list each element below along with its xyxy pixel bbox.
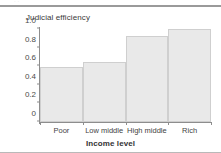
- y-tick-label: 1.0: [25, 16, 36, 25]
- x-tick-label-rich: Rich: [182, 126, 197, 135]
- y-tick-label: 0.4: [25, 71, 36, 80]
- caption-remnant-text: · ·: [14, 0, 134, 4]
- x-tick-label-poor: Poor: [53, 126, 69, 135]
- x-tick-mark: [211, 122, 212, 125]
- bottom-divider-rule: [0, 152, 221, 153]
- x-tick-mark: [126, 122, 127, 125]
- bar-low-middle: [83, 62, 126, 122]
- x-tick-mark: [40, 122, 41, 125]
- x-axis-title: Income level: [0, 139, 221, 148]
- bar-poor: [40, 67, 83, 122]
- x-tick-label-high-middle: High middle: [127, 126, 167, 135]
- figure-panel: · · Judicial efficiency 00.20.40.60.81.0…: [0, 0, 221, 153]
- y-tick-label: 0.6: [25, 53, 36, 62]
- y-tick-label: 0: [32, 109, 36, 118]
- bar-high-middle: [126, 36, 169, 122]
- y-tick-label: 0.2: [25, 90, 36, 99]
- x-tick-label-low-middle: Low middle: [85, 126, 123, 135]
- x-tick-mark: [83, 122, 84, 125]
- top-divider-rule: [0, 5, 221, 7]
- plot-area: 00.20.40.60.81.0 PoorLow middleHigh midd…: [40, 29, 211, 122]
- y-tick-label: 0.8: [25, 34, 36, 43]
- bar-rich: [168, 29, 211, 122]
- bar-series: [40, 29, 211, 122]
- x-tick-mark: [168, 122, 169, 125]
